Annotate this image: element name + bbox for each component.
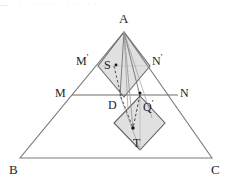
prime-mark-q: ' bbox=[152, 98, 154, 108]
label-m-prime: M' bbox=[76, 53, 88, 67]
label-c: C bbox=[211, 163, 220, 176]
label-s: S bbox=[104, 59, 111, 71]
label-m: M bbox=[55, 87, 66, 99]
dot-t bbox=[131, 126, 134, 129]
geometry-figure: — · · · ·· ···· · · ·· ·· ·· bbox=[0, 0, 229, 183]
label-d: D bbox=[108, 99, 117, 111]
diagram-canvas bbox=[0, 0, 229, 183]
label-q-prime: Q' bbox=[143, 99, 153, 113]
label-a: A bbox=[119, 12, 128, 25]
label-b: B bbox=[9, 163, 18, 176]
dot-s bbox=[115, 64, 118, 67]
label-t: T bbox=[133, 137, 140, 149]
prime-mark-n: ' bbox=[161, 52, 163, 62]
label-n: N bbox=[180, 87, 189, 99]
dot-q bbox=[139, 92, 142, 95]
label-n-prime: N' bbox=[152, 53, 162, 67]
prime-mark-m: ' bbox=[87, 52, 89, 62]
